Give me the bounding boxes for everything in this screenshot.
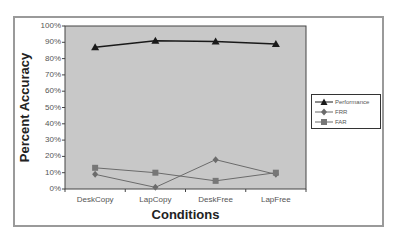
x-tick-label: DeskCopy (65, 195, 125, 204)
legend-label: FRR (335, 109, 347, 115)
legend: Performance FRR FAR (311, 94, 381, 129)
y-tick-label: 70% (33, 70, 61, 79)
x-tick-label: LapFree (246, 195, 306, 204)
y-tick-label: 10% (33, 168, 61, 177)
y-tick-label: 40% (33, 119, 61, 128)
triangle-marker-icon (315, 98, 333, 106)
legend-item-performance: Performance (315, 97, 369, 107)
data-point-far (92, 165, 98, 171)
legend-label: Performance (335, 99, 369, 105)
data-point-far (152, 170, 158, 176)
square-marker-icon (315, 118, 333, 126)
y-tick-label: 80% (33, 54, 61, 63)
y-tick-label: 100% (33, 21, 61, 30)
y-tick-label: 0% (33, 184, 61, 193)
diamond-marker-icon (315, 108, 333, 116)
plot-area (65, 26, 306, 189)
data-point-far (273, 170, 279, 176)
y-tick-label: 20% (33, 151, 61, 160)
x-axis-label: Conditions (65, 207, 306, 222)
y-tick-label: 30% (33, 135, 61, 144)
legend-item-far: FAR (315, 117, 347, 127)
y-axis-label: Percent Accuracy (18, 53, 33, 162)
y-tick-label: 60% (33, 86, 61, 95)
x-tick-label: LapCopy (125, 195, 185, 204)
y-tick-label: 50% (33, 103, 61, 112)
x-tick-label: DeskFree (186, 195, 246, 204)
legend-item-frr: FRR (315, 107, 347, 117)
data-point-far (213, 178, 219, 184)
y-tick-label: 90% (33, 37, 61, 46)
legend-label: FAR (335, 119, 347, 125)
